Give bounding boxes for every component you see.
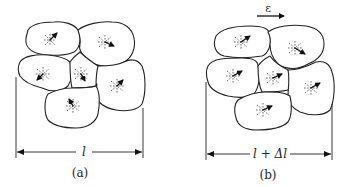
strain-indicator: ε (257, 2, 284, 16)
caption-a: (a) (72, 166, 89, 180)
grain (18, 55, 71, 91)
grain (45, 86, 99, 128)
length-label: l (82, 145, 86, 159)
panel-a: l (a) (16, 22, 145, 180)
grain (214, 26, 270, 58)
grain (288, 61, 334, 114)
grain (207, 58, 260, 97)
caption-b: (b) (259, 168, 276, 182)
length-label: l + Δl (253, 147, 287, 161)
grain (96, 60, 145, 111)
grain (26, 22, 80, 56)
panel-b: ε (206, 2, 334, 182)
polycrystal-strain-diagram: l (a) ε (0, 0, 348, 187)
strain-label: ε (265, 2, 271, 15)
grain (235, 92, 292, 130)
